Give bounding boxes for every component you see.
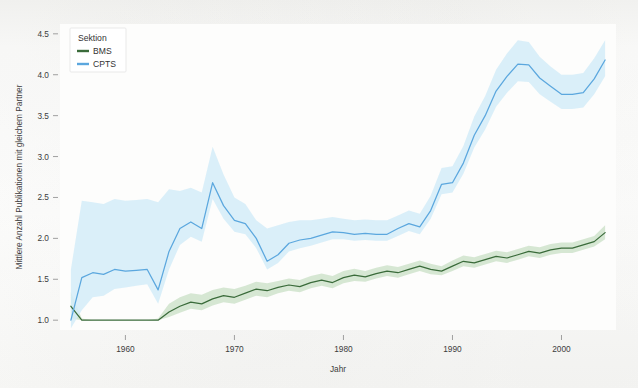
- x-tick-label: 1970: [225, 344, 244, 354]
- y-tick-label: 4.0: [37, 70, 49, 80]
- line-chart-plot: 1.01.52.02.53.03.54.04.5 196019701980199…: [0, 0, 638, 388]
- y-axis-title: Mittlere Anzahl Publikationen mit gleich…: [14, 84, 24, 269]
- y-tick-label: 3.5: [37, 111, 49, 121]
- legend-label-cpts[interactable]: CPTS: [93, 59, 116, 69]
- chart-figure: 1.01.52.02.53.03.54.04.5 196019701980199…: [0, 0, 638, 388]
- y-tick-label: 1.0: [37, 315, 49, 325]
- x-axis-title: Jahr: [330, 364, 346, 374]
- x-tick-label: 1990: [443, 344, 462, 354]
- legend[interactable]: SektionBMSCPTS: [70, 28, 126, 72]
- y-axis: 1.01.52.02.53.03.54.04.5: [37, 29, 58, 325]
- x-tick-label: 1980: [334, 344, 353, 354]
- y-tick-label: 3.0: [37, 152, 49, 162]
- y-tick-label: 1.5: [37, 274, 49, 284]
- legend-label-bms[interactable]: BMS: [93, 46, 112, 56]
- x-tick-label: 1960: [116, 344, 135, 354]
- y-tick-label: 4.5: [37, 29, 49, 39]
- y-tick-label: 2.5: [37, 192, 49, 202]
- legend-title: Sektion: [78, 33, 107, 43]
- y-tick-label: 2.0: [37, 233, 49, 243]
- x-axis: 19601970198019902000: [116, 335, 571, 354]
- x-tick-label: 2000: [552, 344, 571, 354]
